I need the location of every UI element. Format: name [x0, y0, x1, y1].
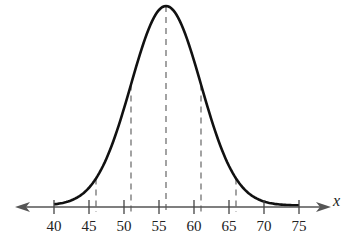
- x-tick-label: 45: [82, 218, 97, 234]
- x-tick-label: 40: [47, 218, 62, 234]
- normal-curve: [54, 6, 299, 205]
- x-tick-label: 55: [152, 218, 167, 234]
- x-axis: 4045505560657075 x: [15, 192, 340, 234]
- x-tick-label: 65: [222, 218, 237, 234]
- x-tick-label: 70: [257, 218, 272, 234]
- normal-distribution-chart: 4045505560657075 x: [0, 0, 348, 244]
- x-tick-label: 60: [187, 218, 202, 234]
- std-dev-dashed-lines: [96, 6, 236, 212]
- x-tick-label: 50: [117, 218, 132, 234]
- x-axis-ticks: 4045505560657075: [47, 200, 307, 234]
- x-tick-label: 75: [292, 218, 307, 234]
- x-axis-label: x: [332, 192, 340, 209]
